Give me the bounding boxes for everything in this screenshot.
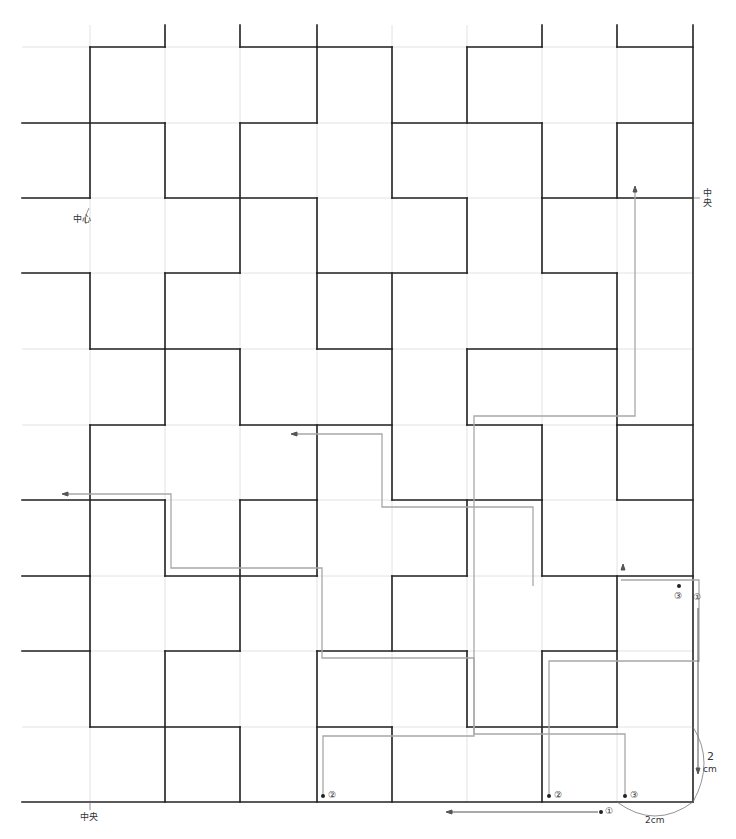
step-2-label: ② <box>328 790 336 800</box>
center-label-top: 中心 <box>73 214 91 224</box>
step-1-label: ① <box>605 806 613 816</box>
guide-grid <box>22 25 693 802</box>
stitch-dots <box>321 584 681 814</box>
dim-horizontal: 2cm <box>645 815 664 825</box>
step-3-label: ③ <box>630 790 638 800</box>
step-2-label: ② <box>554 790 562 800</box>
stitch-paths <box>65 189 699 796</box>
step-3-label: ③ <box>674 591 682 601</box>
pattern-diagram <box>0 0 736 839</box>
center-label-right: 中央 <box>702 188 712 208</box>
pattern-lines <box>22 25 693 802</box>
step-1-label: ① <box>693 592 701 602</box>
center-label-bottom: 中央 <box>80 812 98 822</box>
dim-vertical-number: 2 <box>707 752 714 762</box>
dim-vertical-unit: cm <box>703 764 717 774</box>
